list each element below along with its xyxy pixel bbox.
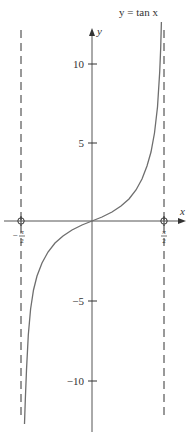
y-tick-label-neg5: −5 — [72, 295, 84, 307]
svg-text:2: 2 — [162, 237, 166, 245]
y-tick-label-10: 10 — [73, 58, 85, 70]
svg-text:−: − — [12, 230, 17, 240]
y-axis-label: y — [96, 25, 102, 37]
chart-title: y = tan x — [119, 6, 158, 18]
x-tick-label-neg-pi-over-2: − π 2 — [12, 228, 25, 245]
x-tick-label-pi-over-2: π 2 — [161, 228, 167, 245]
tan-curve — [25, 22, 162, 424]
y-axis-arrow-icon — [89, 28, 95, 36]
svg-text:π: π — [162, 228, 166, 236]
y-tick-label-5: 5 — [79, 137, 85, 149]
svg-text:2: 2 — [20, 237, 24, 245]
y-tick-label-neg10: −10 — [67, 375, 85, 387]
x-axis-label: x — [179, 205, 185, 217]
svg-text:π: π — [20, 228, 24, 236]
chart-canvas: y = tan x y x 10 5 −5 −10 − π 2 π 2 — [0, 0, 192, 434]
x-axis-arrow-icon — [178, 218, 186, 224]
